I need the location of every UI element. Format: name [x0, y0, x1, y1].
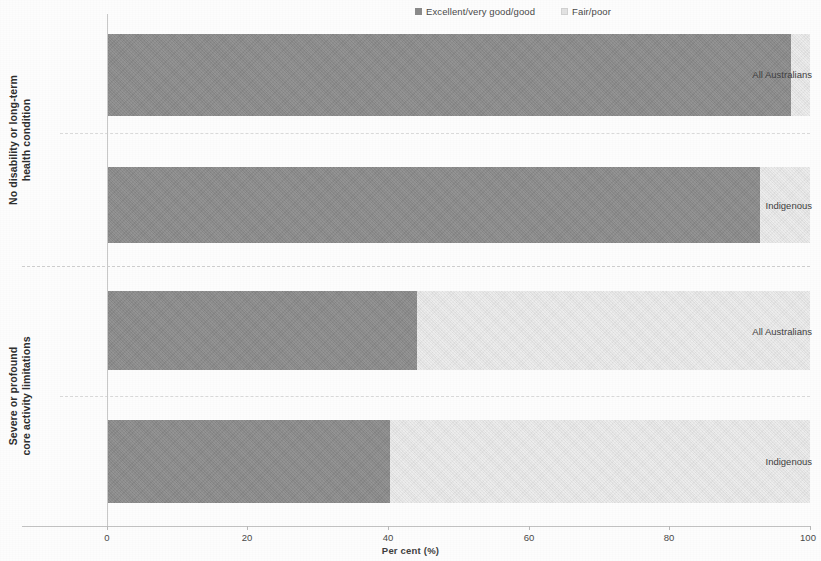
x-tick-mark-40 [388, 526, 389, 530]
x-tick-mark-0 [107, 526, 108, 530]
category-axis-line [107, 14, 108, 526]
x-tick-label-20: 20 [242, 532, 253, 543]
stacked-bar-4 [107, 420, 810, 503]
x-tick-mark-20 [247, 526, 248, 530]
group-separator [22, 266, 810, 267]
chart-legend: Excellent/very good/good Fair/poor [415, 2, 611, 20]
x-tick-label-0: 0 [104, 532, 109, 543]
x-tick-label-80: 80 [664, 532, 675, 543]
category-separator-1 [60, 133, 810, 134]
table-row [107, 167, 810, 243]
category-label-indigenous-no-disability: Indigenous [717, 200, 821, 211]
group-label-no-disability: No disability or long-termhealth conditi… [0, 14, 40, 266]
bar-segment-good-4 [107, 420, 390, 503]
x-tick-mark-80 [669, 526, 670, 530]
value-axis-line [22, 526, 810, 527]
group-label-severe-text: Severe or profoundcore activity limitati… [7, 336, 33, 455]
x-tick-label-40: 40 [383, 532, 394, 543]
table-row [107, 291, 810, 370]
bar-segment-good-3 [107, 291, 417, 370]
bar-segment-good-1 [107, 34, 791, 116]
legend-item-fair-poor: Fair/poor [561, 6, 611, 17]
chart-figure: Excellent/very good/good Fair/poor [0, 0, 821, 561]
legend-swatch-icon-excellent [415, 8, 422, 15]
legend-swatch-icon-fair [561, 8, 568, 15]
category-label-indigenous-severe: Indigenous [717, 456, 821, 467]
x-tick-mark-60 [529, 526, 530, 530]
legend-item-excellent-very-good-good: Excellent/very good/good [415, 6, 535, 17]
x-tick-label-60: 60 [524, 532, 535, 543]
x-tick-label-100: 100 [800, 532, 816, 543]
category-label-all-australians-no-disability: All Australians [717, 69, 821, 80]
legend-label-excellent: Excellent/very good/good [426, 6, 535, 17]
x-tick-mark-100 [810, 526, 811, 530]
x-axis-title: Per cent (%) [0, 545, 821, 556]
stacked-bar-2 [107, 167, 810, 243]
table-row [107, 420, 810, 503]
stacked-bar-1 [107, 34, 810, 116]
category-separator-2 [60, 396, 810, 397]
table-row [107, 34, 810, 116]
group-label-no-disability-text: No disability or long-termhealth conditi… [7, 75, 33, 205]
stacked-bar-3 [107, 291, 810, 370]
bar-segment-good-2 [107, 167, 760, 243]
category-label-all-australians-severe: All Australians [717, 326, 821, 337]
legend-label-fair: Fair/poor [572, 6, 611, 17]
group-label-severe: Severe or profoundcore activity limitati… [0, 266, 40, 526]
